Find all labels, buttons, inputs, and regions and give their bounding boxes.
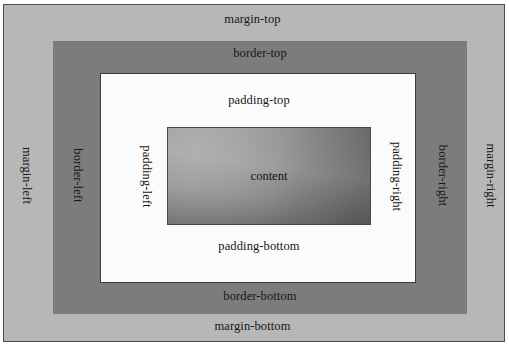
label-padding-left: padding-left [139,131,154,223]
label-border-right: border-right [435,133,450,219]
border-box: border-top border-bottom border-left bor… [53,41,467,314]
label-border-bottom: border-bottom [53,289,467,304]
label-border-left: border-left [70,133,85,219]
margin-box: margin-top margin-bottom margin-left mar… [3,4,505,342]
label-margin-right: margin-right [483,133,498,219]
label-content: content [168,169,370,184]
label-padding-top: padding-top [101,93,417,108]
label-border-top: border-top [53,46,467,61]
label-margin-bottom: margin-bottom [1,319,504,334]
content-box: content [167,127,371,225]
padding-box: padding-top padding-bottom padding-left … [100,73,416,283]
label-margin-left: margin-left [19,133,34,219]
label-padding-bottom: padding-bottom [101,239,417,254]
label-margin-top: margin-top [1,12,504,27]
css-box-model-diagram: margin-top margin-bottom margin-left mar… [0,0,509,347]
label-padding-right: padding-right [389,131,404,223]
